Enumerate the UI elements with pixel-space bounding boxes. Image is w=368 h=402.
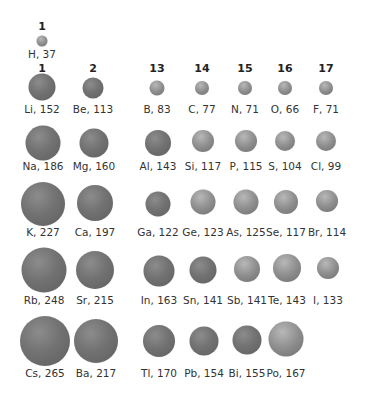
label-si: Si, 117 — [185, 161, 221, 172]
sphere-n — [238, 81, 252, 95]
sphere-sb — [234, 256, 260, 282]
sphere-k — [21, 182, 65, 226]
label-i: I, 133 — [313, 295, 343, 306]
sphere-ga — [146, 192, 171, 217]
label-sr: Sr, 215 — [76, 295, 114, 306]
label-na: Na, 186 — [22, 161, 63, 172]
group-header-14: 14 — [194, 63, 209, 74]
sphere-ba — [74, 319, 118, 363]
sphere-o — [278, 81, 292, 95]
sphere-cl — [316, 131, 336, 151]
sphere-f — [319, 81, 333, 95]
label-k: K, 227 — [26, 227, 60, 238]
label-pb: Pb, 154 — [184, 368, 224, 379]
label-bi: Bi, 155 — [229, 368, 266, 379]
sphere-ge — [191, 190, 216, 215]
label-ca: Ca, 197 — [75, 227, 115, 238]
label-p: P, 115 — [229, 161, 262, 172]
sphere-br — [316, 190, 338, 212]
sphere-be — [83, 78, 104, 99]
sphere-s — [275, 131, 295, 151]
group-header-15: 15 — [237, 63, 252, 74]
sphere-po — [269, 322, 304, 357]
sphere-cs — [20, 316, 70, 366]
label-te: Te, 143 — [268, 295, 306, 306]
sphere-h — [37, 36, 48, 47]
label-ga: Ga, 122 — [137, 227, 178, 238]
label-h: H, 37 — [28, 49, 56, 60]
label-c: C, 77 — [188, 104, 215, 115]
sphere-as — [234, 190, 259, 215]
sphere-se — [274, 190, 298, 214]
label-o: O, 66 — [271, 104, 299, 115]
sphere-c — [195, 81, 209, 95]
label-sb: Sb, 141 — [227, 295, 267, 306]
label-in: In, 163 — [141, 295, 177, 306]
label-b: B, 83 — [143, 104, 170, 115]
label-f: F, 71 — [313, 104, 339, 115]
label-n: N, 71 — [231, 104, 259, 115]
group-header-2: 2 — [89, 63, 97, 74]
label-ba: Ba, 217 — [76, 368, 116, 379]
sphere-sr — [76, 251, 114, 289]
label-al: Al, 143 — [140, 161, 177, 172]
sphere-al — [145, 130, 171, 156]
group-header-13: 13 — [149, 63, 164, 74]
atomic-radii-diagram: 1 H, 37 1 2 13 14 15 16 17 Li, 152 Be, 1… — [0, 0, 368, 402]
sphere-ca — [77, 185, 113, 221]
group-header-1: 1 — [38, 63, 46, 74]
sphere-tl — [143, 325, 175, 357]
sphere-te — [273, 254, 301, 282]
label-ge: Ge, 123 — [182, 227, 223, 238]
label-cl: Cl, 99 — [311, 161, 341, 172]
sphere-p — [235, 130, 257, 152]
label-be: Be, 113 — [73, 104, 113, 115]
group-header-h: 1 — [38, 21, 46, 32]
sphere-in — [144, 256, 175, 287]
sphere-na — [26, 126, 61, 161]
label-cs: Cs, 265 — [25, 368, 65, 379]
label-se: Se, 117 — [266, 227, 306, 238]
label-po: Po, 167 — [266, 368, 305, 379]
sphere-si — [192, 130, 214, 152]
sphere-bi — [233, 326, 262, 355]
group-header-17: 17 — [318, 63, 333, 74]
sphere-b — [150, 81, 165, 96]
sphere-i — [317, 257, 339, 279]
label-s: S, 104 — [268, 161, 301, 172]
label-rb: Rb, 248 — [24, 295, 65, 306]
sphere-li — [29, 74, 56, 101]
group-header-16: 16 — [277, 63, 292, 74]
sphere-rb — [22, 248, 67, 293]
label-tl: Tl, 170 — [141, 368, 177, 379]
label-sn: Sn, 141 — [183, 295, 223, 306]
label-mg: Mg, 160 — [73, 161, 115, 172]
sphere-sn — [190, 257, 217, 284]
label-as: As, 125 — [226, 227, 265, 238]
label-br: Br, 114 — [308, 227, 346, 238]
sphere-mg — [80, 129, 109, 158]
sphere-pb — [190, 327, 219, 356]
label-li: Li, 152 — [24, 104, 59, 115]
